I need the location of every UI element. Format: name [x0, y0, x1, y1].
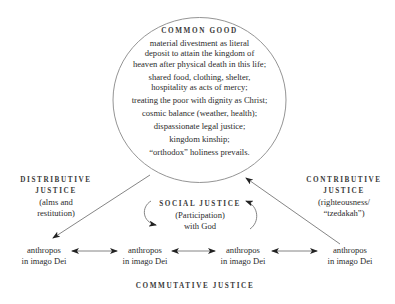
common-good-item-6: kingdom kinship; — [113, 134, 286, 144]
contributive-desc-2: “tzedakah”) — [294, 208, 394, 219]
contributive-title-2: JUSTICE — [294, 186, 394, 197]
item-line: heaven after physical death in this life… — [113, 59, 286, 69]
node-line: in imago Dei — [16, 256, 72, 267]
common-good-box: COMMON GOOD material divestment as liter… — [113, 26, 286, 160]
item-line: shared food, clothing, shelter, — [113, 72, 286, 82]
contributive-title-1: CONTRIBUTIVE — [294, 175, 394, 186]
common-good-item-7: “orthodox” holiness prevails. — [113, 147, 286, 157]
common-good-item-2: shared food, clothing, shelter, hospital… — [113, 72, 286, 93]
node-line: anthropos — [117, 245, 173, 256]
social-justice-title: SOCIAL JUSTICE — [152, 199, 248, 210]
social-justice-desc-2: with God — [152, 221, 248, 232]
node-line: anthropos — [322, 245, 378, 256]
distributive-justice-label: DISTRIBUTIVE JUSTICE (alms and restituti… — [10, 175, 102, 219]
node-line: in imago Dei — [322, 256, 378, 267]
anthropos-node-4: anthropos in imago Dei — [322, 245, 378, 266]
social-justice-label: SOCIAL JUSTICE (Participation) with God — [152, 199, 248, 232]
anthropos-node-1: anthropos in imago Dei — [16, 245, 72, 266]
node-line: anthropos — [215, 245, 271, 256]
anthropos-node-3: anthropos in imago Dei — [215, 245, 271, 266]
distributive-desc-1: (alms and — [10, 197, 102, 208]
distributive-title-1: DISTRIBUTIVE — [10, 175, 102, 186]
social-justice-desc-1: (Participation) — [152, 210, 248, 221]
item-line: hospitality as acts of mercy; — [113, 82, 286, 92]
distributive-title-2: JUSTICE — [10, 186, 102, 197]
common-good-item-3: treating the poor with dignity as Christ… — [113, 95, 286, 105]
anthropos-node-2: anthropos in imago Dei — [117, 245, 173, 266]
item-line: deposit to attain the kingdom of — [113, 48, 286, 58]
common-good-item-5: dispassionate legal justice; — [113, 121, 286, 131]
common-good-item-4: cosmic balance (weather, health); — [113, 108, 286, 118]
distributive-desc-2: restitution) — [10, 208, 102, 219]
node-line: in imago Dei — [117, 256, 173, 267]
contributive-desc-1: (righteousness/ — [294, 197, 394, 208]
commutative-justice-label: COMMUTATIVE JUSTICE — [120, 281, 270, 292]
node-line: in imago Dei — [215, 256, 271, 267]
item-line: material divestment as literal — [113, 38, 286, 48]
common-good-item-1: material divestment as literal deposit t… — [113, 38, 286, 69]
node-line: anthropos — [16, 245, 72, 256]
contributive-justice-label: CONTRIBUTIVE JUSTICE (righteousness/ “tz… — [294, 175, 394, 219]
common-good-title: COMMON GOOD — [113, 26, 286, 37]
